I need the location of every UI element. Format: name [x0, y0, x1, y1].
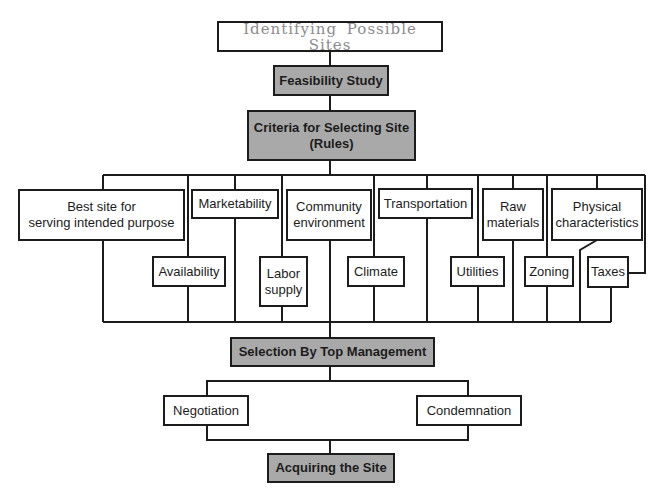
node-feasibility-study: Feasibility Study	[273, 65, 389, 96]
node-physical-characteristics: Physical characteristics	[551, 188, 643, 241]
node-criteria-for-selecting-site: Criteria for Selecting Site (Rules)	[247, 110, 416, 161]
node-marketability: Marketability	[191, 189, 279, 219]
node-negotiation: Negotiation	[163, 395, 249, 426]
node-availability: Availability	[152, 256, 226, 287]
site-selection-flowchart: Identifying Possible Sites Feasibility S…	[0, 0, 661, 499]
node-acquiring-the-site: Acquiring the Site	[267, 453, 395, 483]
node-utilities: Utilities	[450, 256, 505, 287]
node-identifying-possible-sites: Identifying Possible Sites	[217, 21, 443, 52]
node-transportation: Transportation	[378, 188, 473, 219]
node-best-site: Best site for serving intended purpose	[18, 189, 185, 241]
node-selection-by-top-management: Selection By Top Management	[230, 337, 435, 367]
node-climate: Climate	[347, 256, 405, 287]
node-labor-supply: Labor supply	[259, 256, 308, 307]
node-taxes: Taxes	[587, 256, 629, 288]
node-community-environment: Community environment	[286, 189, 372, 241]
node-zoning: Zoning	[524, 256, 574, 287]
node-raw-materials: Raw materials	[482, 188, 544, 241]
node-condemnation: Condemnation	[416, 395, 522, 426]
